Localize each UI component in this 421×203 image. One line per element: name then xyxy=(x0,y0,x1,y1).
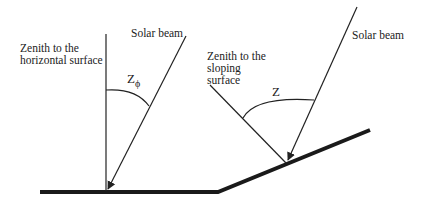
left-solar-beam-arrow xyxy=(108,36,186,189)
left-angle-label: Zϕ xyxy=(127,71,140,89)
sloping-zenith-label-line2: sloping xyxy=(207,62,266,74)
left-angle-symbol: Z xyxy=(127,71,135,86)
horizontal-zenith-label-line2: horizontal surface xyxy=(20,54,103,66)
horizontal-zenith-label-line1: Zenith to the xyxy=(20,42,103,54)
sloping-zenith-label-line3: surface xyxy=(207,74,266,86)
ground-surface xyxy=(40,130,370,192)
right-solar-beam-arrow xyxy=(288,7,357,160)
right-angle-label: Z xyxy=(272,84,280,100)
left-solar-beam-label: Solar beam xyxy=(131,27,183,39)
horizontal-zenith-label: Zenith to the horizontal surface xyxy=(20,42,103,66)
left-angle-subscript: ϕ xyxy=(135,78,140,89)
sloping-zenith-label: Zenith to the sloping surface xyxy=(207,50,266,86)
right-solar-beam-label: Solar beam xyxy=(352,29,404,41)
left-angle-arc xyxy=(106,90,149,106)
solar-zenith-diagram: Zenith to the horizontal surface Solar b… xyxy=(0,0,421,203)
right-angle-arc xyxy=(243,99,314,118)
sloping-zenith-label-line1: Zenith to the xyxy=(207,50,266,62)
